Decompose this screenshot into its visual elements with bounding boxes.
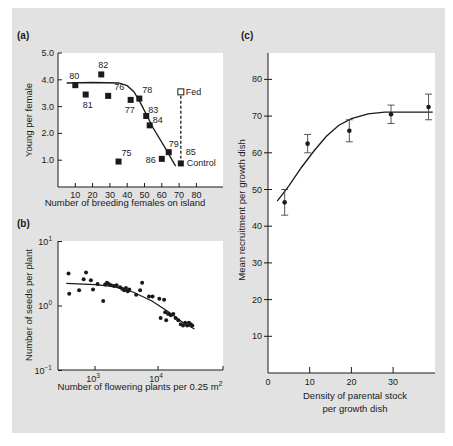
x-tick-label: 20 xyxy=(346,377,356,387)
x-tick-label: 10 xyxy=(305,377,315,387)
panel-c-y-label: Mean recruitment per growth dish xyxy=(236,139,247,281)
data-point-marker xyxy=(176,318,180,322)
y-tick-label: 3.0 xyxy=(41,102,54,112)
data-point-marker xyxy=(91,288,95,292)
data-point-label: 81 xyxy=(83,100,93,110)
data-point-marker xyxy=(305,141,310,146)
data-point-marker xyxy=(140,281,144,285)
y-tick-label: 10 xyxy=(252,331,262,341)
data-point-marker xyxy=(171,312,175,316)
data-point-label: 79 xyxy=(169,139,179,149)
panel-b-plot-area xyxy=(58,241,223,370)
data-point-marker xyxy=(190,323,194,327)
data-point-marker xyxy=(157,297,161,301)
panel-c-plot-area xyxy=(268,53,435,373)
data-point-label: 75 xyxy=(122,148,132,158)
panel-b-x-label-sup: 2 xyxy=(219,380,223,387)
y-tick-label: 5.0 xyxy=(41,48,54,58)
figure: (a) 1.02.03.04.05.0 1020304050607080 808… xyxy=(0,0,453,446)
panel-c-x-label-line1: Density of parental stock xyxy=(303,390,407,401)
data-point-marker xyxy=(128,97,134,103)
data-point-marker xyxy=(84,271,88,275)
data-point-marker xyxy=(89,278,93,282)
panel-b: (b) 10110010−1 103104 Number of flowerin… xyxy=(17,218,223,392)
data-point-label: 76 xyxy=(114,82,124,92)
x-tick-label: 30 xyxy=(388,377,398,387)
data-point-marker xyxy=(136,96,142,102)
data-point-marker xyxy=(101,299,105,303)
data-point-marker xyxy=(389,112,394,117)
data-point-marker xyxy=(98,71,104,77)
data-point-marker xyxy=(67,292,71,296)
data-point-marker xyxy=(116,159,122,165)
y-tick-label: 80 xyxy=(252,74,262,84)
data-point-label: 85 xyxy=(186,147,196,157)
data-point-marker xyxy=(127,288,131,292)
data-point-marker xyxy=(138,288,142,292)
panel-a-label: (a) xyxy=(17,30,29,41)
y-tick-label: 50 xyxy=(252,185,262,195)
data-point-marker xyxy=(72,82,78,88)
y-tick-label: 4.0 xyxy=(41,75,54,85)
data-point-marker xyxy=(178,160,184,166)
data-point-label: 83 xyxy=(148,105,158,115)
y-tick-label: 70 xyxy=(252,111,262,121)
panel-a-y-label: Young per female xyxy=(23,83,34,157)
panel-a-control-label: Control xyxy=(187,158,216,168)
data-point-marker xyxy=(159,316,163,320)
data-point-marker xyxy=(134,293,138,297)
y-tick-label: 40 xyxy=(252,221,262,231)
fed-point-marker xyxy=(178,89,184,95)
panel-b-x-label: Number of flowering plants per 0.25 m2 xyxy=(58,380,223,392)
panel-a-fed-point xyxy=(178,89,184,95)
data-point-label: 84 xyxy=(153,115,163,125)
data-point-marker xyxy=(96,282,100,286)
data-point-label: 82 xyxy=(98,60,108,70)
panel-b-y-label: Number of seeds per plant xyxy=(23,249,34,361)
panel-b-x-label-text: Number of flowering plants per 0.25 m xyxy=(58,381,219,392)
panel-b-label: (b) xyxy=(17,218,30,229)
data-point-label: 86 xyxy=(146,155,156,165)
data-point-marker xyxy=(82,277,86,281)
panel-a-x-label: Number of breeding females on island xyxy=(45,197,206,208)
data-point-marker xyxy=(426,105,431,110)
data-point-marker xyxy=(115,283,119,287)
panel-a-fed-label: Fed xyxy=(186,87,202,97)
data-point-marker xyxy=(151,295,155,299)
data-point-marker xyxy=(105,93,111,99)
panel-c-x-label-line2: per growth dish xyxy=(323,403,388,414)
x-tick-label: 0 xyxy=(265,377,270,387)
y-tick-label: 2.0 xyxy=(41,128,54,138)
data-point-marker xyxy=(166,149,172,155)
data-point-marker xyxy=(67,271,71,275)
panel-c-label: (c) xyxy=(241,30,253,41)
data-point-marker xyxy=(162,298,166,302)
y-tick-label: 1.0 xyxy=(41,155,54,165)
data-point-marker xyxy=(347,128,352,133)
y-tick-label: 20 xyxy=(252,295,262,305)
y-tick-label: 60 xyxy=(252,148,262,158)
data-point-marker xyxy=(147,295,151,299)
data-point-label: 77 xyxy=(125,105,135,115)
data-point-marker xyxy=(83,92,89,98)
y-tick-label: 30 xyxy=(252,258,262,268)
data-point-label: 78 xyxy=(142,85,152,95)
data-point-marker xyxy=(77,288,81,292)
data-point-marker xyxy=(282,200,287,205)
data-point-label: 80 xyxy=(69,71,79,81)
data-point-marker xyxy=(159,156,165,162)
data-point-marker xyxy=(164,318,168,322)
